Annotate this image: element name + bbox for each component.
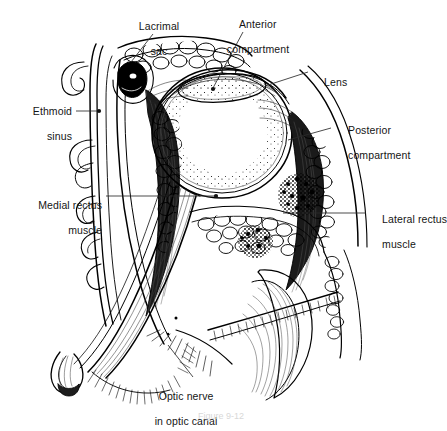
leader-dot-ethmoid-sinus <box>97 109 101 113</box>
label-anterior-compartment: Anterior compartment <box>200 6 304 68</box>
leader-dot-medial-rectus-muscle <box>214 194 218 198</box>
leader-optic-nerve-in-optic-canal <box>168 345 193 377</box>
figure-caption: Figure 9-12 <box>0 411 442 421</box>
leader-posterior-compartment <box>288 128 331 140</box>
label-lacrimal-sac: Lacrimal sac <box>110 8 196 70</box>
label-medial-rectus-muscle-line2: muscle <box>68 224 102 236</box>
label-lens-line1: Lens <box>324 76 347 88</box>
leader-lens <box>265 72 308 86</box>
label-ethmoid-sinus-line2: sinus <box>47 130 72 142</box>
label-lacrimal-sac-line2: sac <box>151 45 168 57</box>
label-lacrimal-sac-line1: Lacrimal <box>139 20 179 32</box>
label-anterior-compartment-line1: Anterior <box>239 18 277 30</box>
label-medial-rectus-muscle: Medial rectus muscle <box>4 187 102 249</box>
label-lens: Lens <box>312 64 372 101</box>
label-optic-nerve-in-optic-canal: Optic nerve in optic canal <box>128 378 232 431</box>
label-posterior-compartment: Posterior compartment <box>336 112 440 174</box>
label-anterior-compartment-line2: compartment <box>227 43 289 55</box>
label-posterior-compartment-line1: Posterior <box>348 124 391 136</box>
label-lateral-rectus-muscle-line2: muscle <box>382 238 416 250</box>
label-medial-rectus-muscle-line1: Medial rectus <box>38 199 102 211</box>
leader-dot-anterior-compartment <box>211 87 215 91</box>
label-lateral-rectus-muscle: Lateral rectus muscle <box>370 201 442 263</box>
label-lateral-rectus-muscle-line1: Lateral rectus <box>382 213 447 225</box>
label-posterior-compartment-line2: compartment <box>348 149 410 161</box>
label-ethmoid-sinus: Ethmoid sinus <box>4 93 72 155</box>
label-ethmoid-sinus-line1: Ethmoid <box>33 105 72 117</box>
label-optic-nerve-line1: Optic nerve <box>159 390 214 402</box>
